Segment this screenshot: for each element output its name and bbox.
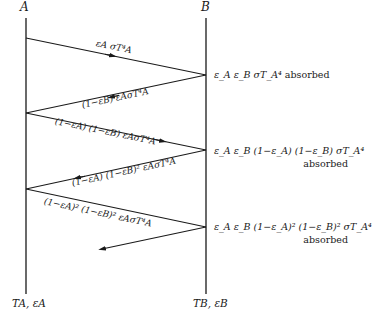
absorbed-1-expr: ε_A ε_B σT_A⁴	[214, 69, 282, 80]
absorbed-1-suffix: absorbed	[285, 69, 330, 80]
absorbed-3-expr: ε_A ε_B (1−ε_A)² (1−ε_B)² σT_A⁴	[214, 221, 372, 232]
surface-b-label: B	[201, 2, 210, 13]
absorbed-1: ε_A ε_B σT_A⁴ absorbed	[214, 69, 330, 80]
absorbed-3-suffix: absorbed	[303, 234, 348, 245]
surface-b-properties: TB, εB	[193, 298, 228, 309]
ray-6	[102, 227, 206, 249]
surface-a-label: A	[20, 2, 29, 13]
absorbed-2-suffix: absorbed	[303, 158, 348, 169]
surface-a-properties: TA, εA	[12, 298, 46, 309]
ray-1-arrow-icon	[105, 54, 113, 56]
absorbed-2-expr: ε_A ε_B (1−ε_A) (1−ε_B) σT_A⁴	[214, 145, 364, 156]
